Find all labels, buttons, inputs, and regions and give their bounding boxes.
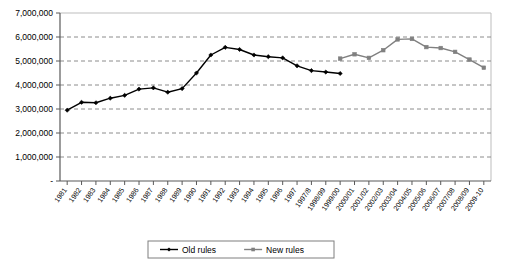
y-tick-label: 7,000,000 <box>15 8 53 18</box>
x-tick-label: 1984 <box>95 186 112 204</box>
x-tick-label: 1995 <box>253 186 270 204</box>
data-point <box>338 57 342 61</box>
x-tick-label: 1991 <box>196 186 213 204</box>
y-tick-label: 4,000,000 <box>15 80 53 90</box>
data-point <box>252 53 256 57</box>
data-point <box>468 58 472 62</box>
data-point <box>410 37 414 41</box>
y-tick-label: 6,000,000 <box>15 32 53 42</box>
data-point <box>266 55 270 59</box>
data-point <box>338 71 342 75</box>
data-point <box>482 66 486 70</box>
data-point <box>367 56 371 60</box>
chart-canvas: -1,000,0002,000,0003,000,0004,000,0005,0… <box>0 0 508 266</box>
data-point <box>123 93 127 97</box>
data-point <box>439 46 443 50</box>
legend-marker <box>251 248 255 252</box>
x-tick-label: 1985 <box>110 186 127 204</box>
data-point <box>381 48 385 52</box>
data-point <box>453 50 457 54</box>
y-tick-label: - <box>50 176 53 186</box>
x-tick-label: 1989 <box>167 186 184 204</box>
x-tick-label: 1992 <box>210 186 227 204</box>
data-point <box>324 70 328 74</box>
data-point <box>108 96 112 100</box>
line-chart: -1,000,0002,000,0003,000,0004,000,0005,0… <box>0 0 508 266</box>
x-tick-label: 1993 <box>225 186 242 204</box>
x-tick-label: 1983 <box>81 186 98 204</box>
y-tick-label: 5,000,000 <box>15 56 53 66</box>
data-point <box>151 86 155 90</box>
x-tick-label: 1982 <box>67 186 84 204</box>
data-point <box>166 90 170 94</box>
data-point <box>396 38 400 42</box>
legend-label: Old rules <box>182 245 216 255</box>
x-tick-label: 1987 <box>138 186 155 204</box>
data-point <box>425 45 429 49</box>
x-tick-label: 1986 <box>124 186 141 204</box>
series-line-old-rules <box>67 47 340 110</box>
legend-label: New rules <box>266 245 304 255</box>
x-tick-label: 1990 <box>182 186 199 204</box>
x-tick-label: 1988 <box>153 186 170 204</box>
data-point <box>309 69 313 73</box>
y-tick-label: 1,000,000 <box>15 152 53 162</box>
data-point <box>137 87 141 91</box>
data-point <box>94 101 98 105</box>
data-point <box>237 47 241 51</box>
x-tick-label: 1994 <box>239 186 256 204</box>
data-point <box>353 52 357 56</box>
series-line-new-rules <box>340 39 484 68</box>
x-tick-label: 1996 <box>268 186 285 204</box>
x-tick-label: 1981 <box>52 186 69 204</box>
y-tick-label: 3,000,000 <box>15 104 53 114</box>
y-tick-label: 2,000,000 <box>15 128 53 138</box>
